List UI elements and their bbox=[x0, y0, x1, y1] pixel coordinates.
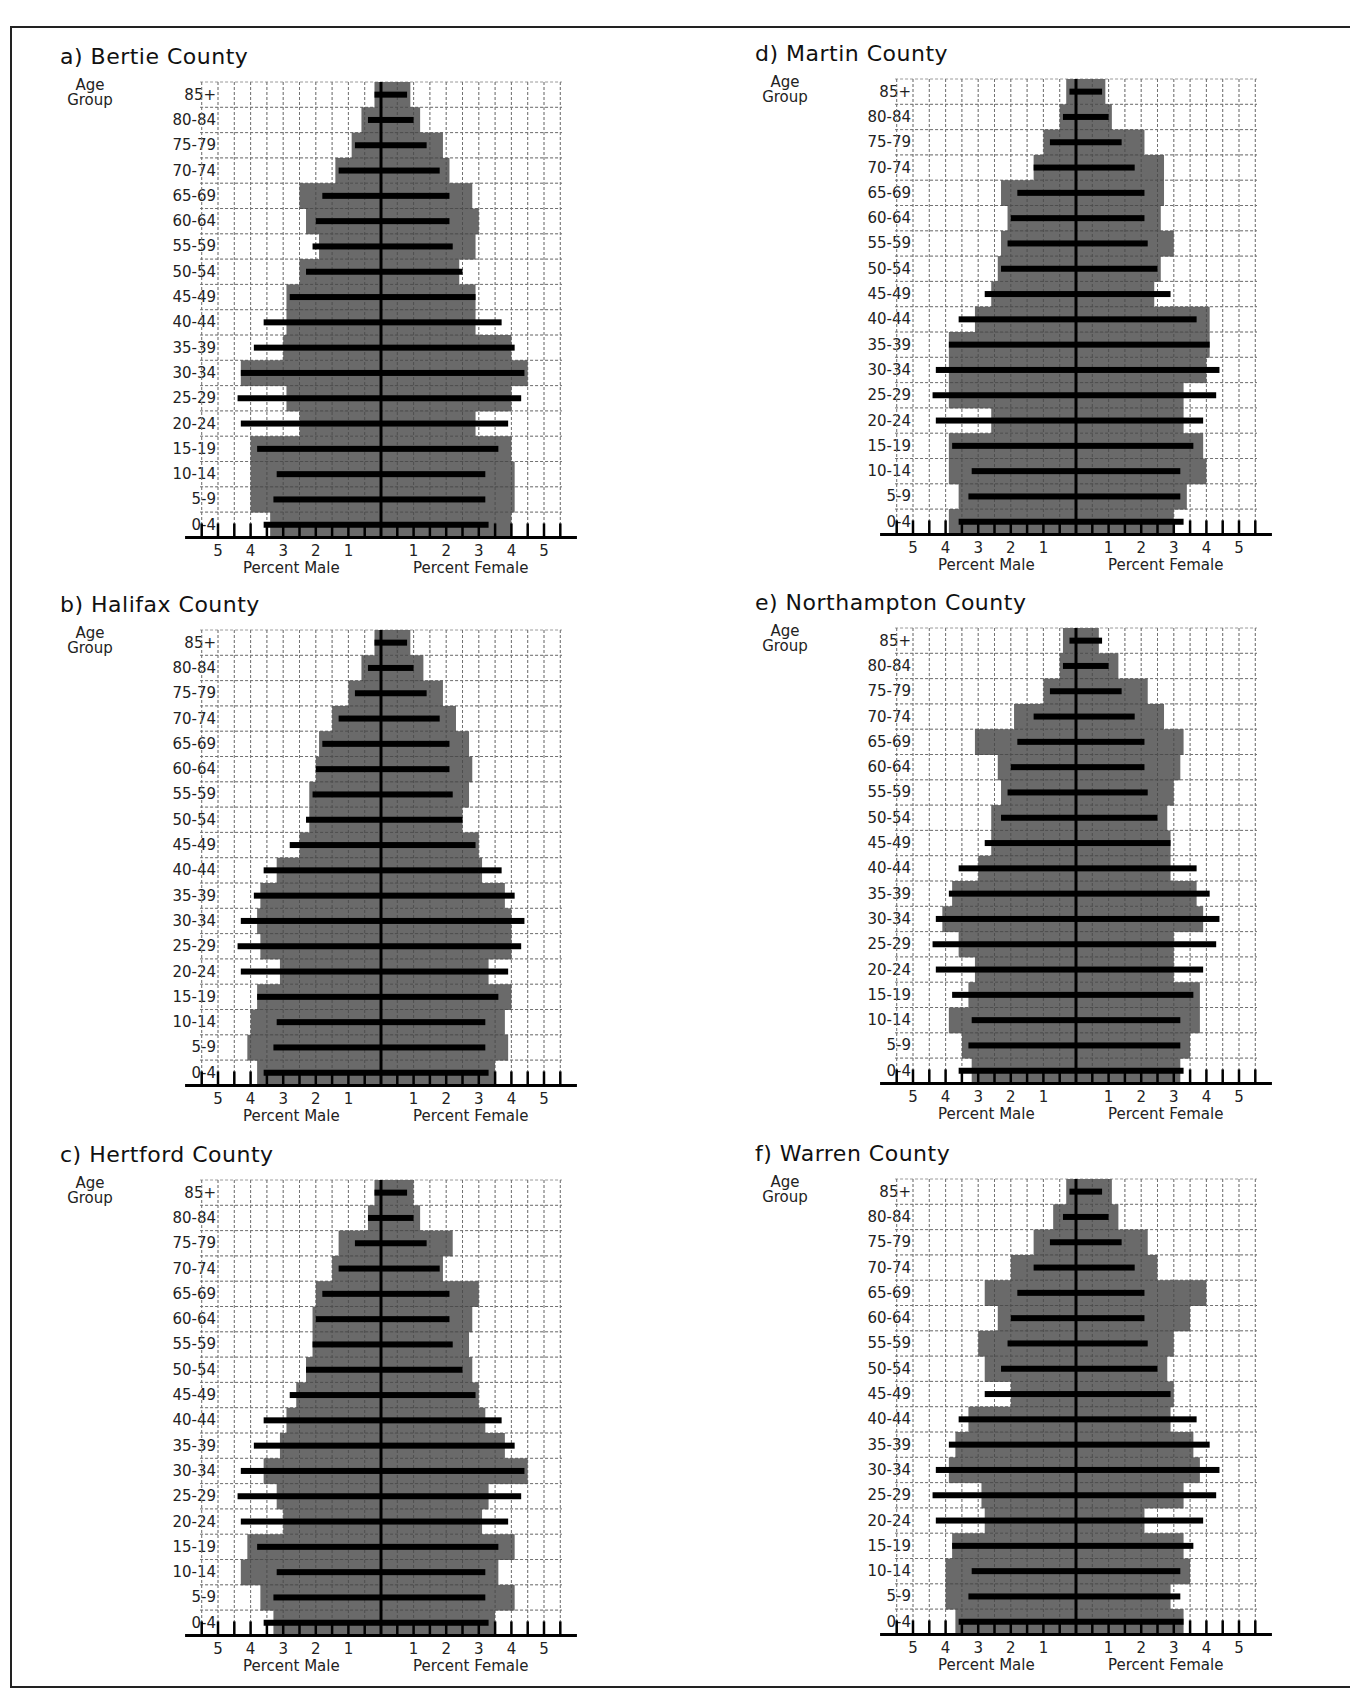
svg-text:3: 3 bbox=[1169, 1088, 1179, 1106]
x-axis-title-male: Percent Male bbox=[938, 1656, 1035, 1674]
svg-text:4: 4 bbox=[507, 542, 517, 560]
svg-text:5: 5 bbox=[539, 542, 549, 560]
population-pyramid-chart: 5432112345Percent MalePercent Female bbox=[735, 41, 1354, 591]
population-pyramid-chart: 5432112345Percent MalePercent Female bbox=[735, 1141, 1354, 1691]
population-pyramid-chart: 5432112345Percent MalePercent Female bbox=[735, 590, 1354, 1140]
svg-text:4: 4 bbox=[941, 1088, 951, 1106]
svg-text:4: 4 bbox=[246, 1640, 256, 1658]
svg-text:3: 3 bbox=[973, 1639, 983, 1657]
svg-text:2: 2 bbox=[1006, 539, 1016, 557]
svg-text:3: 3 bbox=[474, 542, 484, 560]
svg-text:2: 2 bbox=[311, 1640, 321, 1658]
x-axis-title-female: Percent Female bbox=[413, 1657, 528, 1675]
svg-text:4: 4 bbox=[507, 1090, 517, 1108]
svg-text:1: 1 bbox=[1039, 1639, 1049, 1657]
svg-text:1: 1 bbox=[1104, 1088, 1114, 1106]
x-axis-title-female: Percent Female bbox=[413, 559, 528, 577]
svg-text:4: 4 bbox=[1202, 1639, 1212, 1657]
svg-text:2: 2 bbox=[1136, 1088, 1146, 1106]
svg-text:3: 3 bbox=[278, 542, 288, 560]
svg-text:5: 5 bbox=[908, 539, 918, 557]
svg-text:1: 1 bbox=[1039, 1088, 1049, 1106]
svg-text:2: 2 bbox=[1006, 1088, 1016, 1106]
svg-text:2: 2 bbox=[1136, 539, 1146, 557]
x-axis-title-male: Percent Male bbox=[938, 1105, 1035, 1123]
svg-text:2: 2 bbox=[441, 1090, 451, 1108]
x-axis-title-male: Percent Male bbox=[243, 1107, 340, 1125]
svg-text:1: 1 bbox=[1104, 1639, 1114, 1657]
svg-text:1: 1 bbox=[409, 1090, 419, 1108]
population-pyramid-chart: 5432112345Percent MalePercent Female bbox=[40, 592, 660, 1142]
svg-text:3: 3 bbox=[973, 539, 983, 557]
panel-warren: f) Warren County AgeGroup 85+80-8475-797… bbox=[735, 1141, 1354, 1691]
svg-text:3: 3 bbox=[278, 1640, 288, 1658]
svg-text:2: 2 bbox=[311, 542, 321, 560]
x-axis-title-male: Percent Male bbox=[938, 556, 1035, 574]
panel-hertford: c) Hertford County AgeGroup 85+80-8475-7… bbox=[40, 1142, 660, 1692]
svg-text:1: 1 bbox=[344, 542, 354, 560]
panel-bertie: a) Bertie County AgeGroup 85+80-8475-797… bbox=[40, 44, 660, 594]
x-axis-title-female: Percent Female bbox=[413, 1107, 528, 1125]
svg-text:2: 2 bbox=[441, 1640, 451, 1658]
county-bars bbox=[241, 1180, 528, 1636]
svg-text:3: 3 bbox=[474, 1090, 484, 1108]
x-axis-title-female: Percent Female bbox=[1108, 556, 1223, 574]
svg-text:5: 5 bbox=[1234, 539, 1244, 557]
population-pyramid-chart: 5432112345Percent MalePercent Female bbox=[40, 1142, 660, 1692]
panel-northampton: e) Northampton County AgeGroup 85+80-847… bbox=[735, 590, 1354, 1140]
svg-text:3: 3 bbox=[474, 1640, 484, 1658]
county-bars bbox=[241, 82, 528, 538]
svg-text:3: 3 bbox=[278, 1090, 288, 1108]
panel-martin: d) Martin County AgeGroup 85+80-8475-797… bbox=[735, 41, 1354, 591]
svg-text:3: 3 bbox=[1169, 1639, 1179, 1657]
svg-text:1: 1 bbox=[409, 542, 419, 560]
svg-text:1: 1 bbox=[344, 1090, 354, 1108]
svg-text:4: 4 bbox=[507, 1640, 517, 1658]
svg-text:5: 5 bbox=[908, 1088, 918, 1106]
x-axis-title-male: Percent Male bbox=[243, 559, 340, 577]
svg-text:4: 4 bbox=[1202, 1088, 1212, 1106]
svg-text:3: 3 bbox=[973, 1088, 983, 1106]
svg-text:5: 5 bbox=[539, 1640, 549, 1658]
svg-text:2: 2 bbox=[1006, 1639, 1016, 1657]
svg-text:1: 1 bbox=[1104, 539, 1114, 557]
svg-text:4: 4 bbox=[941, 1639, 951, 1657]
svg-text:3: 3 bbox=[1169, 539, 1179, 557]
svg-text:1: 1 bbox=[1039, 539, 1049, 557]
x-axis-title-female: Percent Female bbox=[1108, 1656, 1223, 1674]
svg-text:5: 5 bbox=[908, 1639, 918, 1657]
population-pyramid-chart: 5432112345Percent MalePercent Female bbox=[40, 44, 660, 594]
svg-text:5: 5 bbox=[1234, 1639, 1244, 1657]
svg-text:4: 4 bbox=[246, 542, 256, 560]
svg-text:5: 5 bbox=[213, 1640, 223, 1658]
svg-text:1: 1 bbox=[344, 1640, 354, 1658]
svg-text:5: 5 bbox=[539, 1090, 549, 1108]
svg-text:4: 4 bbox=[941, 539, 951, 557]
svg-text:4: 4 bbox=[246, 1090, 256, 1108]
panel-halifax: b) Halifax County AgeGroup 85+80-8475-79… bbox=[40, 592, 660, 1142]
svg-text:1: 1 bbox=[409, 1640, 419, 1658]
svg-text:2: 2 bbox=[311, 1090, 321, 1108]
svg-text:5: 5 bbox=[213, 542, 223, 560]
svg-text:2: 2 bbox=[1136, 1639, 1146, 1657]
svg-text:5: 5 bbox=[1234, 1088, 1244, 1106]
x-axis-title-male: Percent Male bbox=[243, 1657, 340, 1675]
x-axis-title-female: Percent Female bbox=[1108, 1105, 1223, 1123]
svg-text:5: 5 bbox=[213, 1090, 223, 1108]
svg-text:4: 4 bbox=[1202, 539, 1212, 557]
svg-text:2: 2 bbox=[441, 542, 451, 560]
